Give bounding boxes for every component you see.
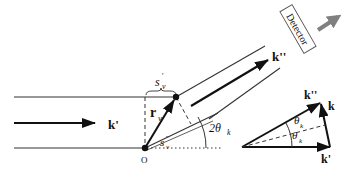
scattered-wavevector-label: k'' — [272, 49, 286, 64]
path-incident-label: s ' ν — [155, 72, 166, 91]
triangle-bisector-dashed — [242, 125, 325, 147]
origin-point — [142, 145, 148, 151]
svg-text:ν: ν — [158, 113, 162, 123]
scattering-diagram: k' k'' s ' ν r ν O s '' ν 2θ k — [0, 0, 351, 172]
scatterer-point — [173, 94, 179, 100]
path-incident-brace — [146, 88, 176, 95]
triangle-k-prime-label: k' — [321, 152, 331, 166]
two-theta-label: 2θ k — [209, 121, 231, 137]
svg-text:ν: ν — [162, 82, 166, 91]
perpendicular-dashed-line — [176, 97, 191, 124]
triangle-k-double-prime-label: k'' — [304, 88, 317, 102]
detector: Detector — [280, 5, 316, 54]
svg-text:θ: θ — [292, 129, 298, 141]
position-vector-label: r ν — [150, 105, 162, 123]
svg-text:k: k — [227, 128, 231, 137]
svg-text:ν: ν — [166, 143, 170, 151]
theta-upper-label: θ k — [294, 114, 304, 130]
svg-text:2θ: 2θ — [209, 121, 221, 135]
svg-text:k: k — [299, 137, 303, 145]
svg-text:': ' — [162, 72, 164, 81]
scattered-inner-edge-2 — [147, 121, 213, 150]
detector-direction-arrow — [318, 17, 338, 30]
scattered-beam-bottom-edge — [209, 68, 280, 119]
triangle-k-label: k — [328, 99, 335, 113]
svg-text:r: r — [150, 105, 156, 120]
incident-wavevector-label: k' — [108, 117, 119, 132]
svg-text:s: s — [160, 136, 164, 148]
theta-lower-label: θ k — [292, 129, 303, 145]
origin-label: O — [141, 155, 148, 165]
svg-text:k: k — [300, 122, 304, 130]
svg-text:'': '' — [166, 134, 169, 142]
vector-triangle: θ k θ k k'' k k' — [242, 88, 335, 166]
triangle-k-double-prime-arrow — [242, 103, 320, 147]
svg-text:s: s — [155, 75, 160, 89]
